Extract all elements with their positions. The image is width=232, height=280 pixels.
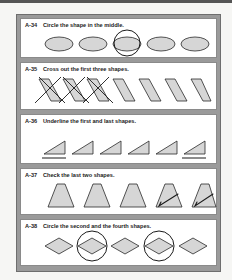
ellipse-shape [181, 37, 209, 51]
triangle-shape [100, 141, 121, 154]
triangle-shape [72, 141, 93, 154]
ellipse-shape [45, 37, 73, 51]
ellipse-shape [147, 37, 175, 51]
parallelogram-row [21, 63, 218, 111]
ellipse-shape [113, 37, 141, 51]
section-a36: A-36Underline the first and last shapes. [20, 114, 217, 164]
worksheet: A-34Circle the shape in the middle. A-35… [16, 14, 221, 272]
diamond-row [21, 220, 218, 267]
diamond-shape [45, 238, 73, 254]
section-a38: A-38Circle the second and the fourth sha… [20, 219, 217, 266]
trapezoid-shape [192, 184, 216, 207]
diamond-shape [78, 238, 106, 254]
parallelogram-shape [39, 79, 61, 101]
ellipse-shape [79, 37, 107, 51]
section-a37: A-37Check the last two shapes. [20, 168, 217, 215]
parallelogram-shape [87, 79, 109, 101]
section-a34: A-34Circle the shape in the middle. [20, 18, 217, 58]
diamond-shape [145, 238, 173, 254]
triangle-shape [44, 141, 65, 154]
ellipse-row [21, 19, 218, 59]
diamond-shape [111, 238, 139, 254]
trapezoid-shape [120, 184, 146, 207]
triangle-shape [184, 141, 205, 154]
triangle-shape [128, 141, 149, 154]
triangle-shape [156, 141, 177, 154]
diamond-shape [179, 238, 207, 254]
triangle-row [21, 115, 218, 165]
trapezoid-row [21, 169, 218, 216]
section-a35: A-35Cross out the first three shapes. [20, 62, 217, 110]
top-rule [0, 0, 232, 3]
parallelogram-shape [113, 79, 135, 101]
parallelogram-shape [191, 79, 211, 101]
parallelogram-shape [63, 79, 85, 101]
trapezoid-shape [84, 184, 110, 207]
parallelogram-shape [139, 79, 161, 101]
parallelogram-shape [165, 79, 187, 101]
trapezoid-shape [48, 184, 74, 207]
